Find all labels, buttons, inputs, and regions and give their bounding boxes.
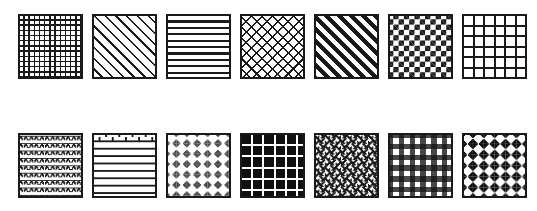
pattern-fill-argyle-diamond-lattice <box>166 133 231 198</box>
pattern-fill-horizontal-stripes <box>166 14 231 79</box>
swatch-bold-diagonal-stripes[interactable] <box>314 14 379 79</box>
swatch-horizontal-stripes[interactable] <box>166 14 231 79</box>
swatch-fish-scale-scallop[interactable] <box>18 133 83 198</box>
swatch-gingham-plaid[interactable] <box>388 133 453 198</box>
pattern-fill-bold-diamond-dots <box>462 133 527 198</box>
pattern-fill-basketweave <box>314 133 379 198</box>
swatch-checkerboard[interactable] <box>388 14 453 79</box>
swatch-fine-square-grid[interactable] <box>18 14 83 79</box>
pattern-fill-bold-diagonal-stripes <box>314 14 379 79</box>
pattern-fill-fish-scale-scallop <box>18 133 83 198</box>
swatch-coarse-square-grid[interactable] <box>462 14 527 79</box>
swatch-thin-diagonal-stripes[interactable] <box>92 14 157 79</box>
pattern-fill-thin-diagonal-stripes <box>92 14 157 79</box>
pattern-fill-fine-square-grid <box>18 14 83 79</box>
pattern-fill-running-bond-brick <box>92 133 157 198</box>
pattern-fill-gingham-plaid <box>388 133 453 198</box>
swatch-diagonal-crosshatch[interactable] <box>240 14 305 79</box>
pattern-swatch-sheet <box>0 0 537 211</box>
pattern-fill-inverted-grid <box>240 133 305 198</box>
swatch-basketweave[interactable] <box>314 133 379 198</box>
swatch-inverted-grid[interactable] <box>240 133 305 198</box>
pattern-fill-diagonal-crosshatch <box>240 14 305 79</box>
swatch-argyle-diamond-lattice[interactable] <box>166 133 231 198</box>
swatch-bold-diamond-dots[interactable] <box>462 133 527 198</box>
pattern-fill-checkerboard <box>388 14 453 79</box>
swatch-row-2 <box>0 133 537 199</box>
swatch-row-1 <box>0 14 537 80</box>
swatch-running-bond-brick[interactable] <box>92 133 157 198</box>
pattern-fill-coarse-square-grid <box>462 14 527 79</box>
